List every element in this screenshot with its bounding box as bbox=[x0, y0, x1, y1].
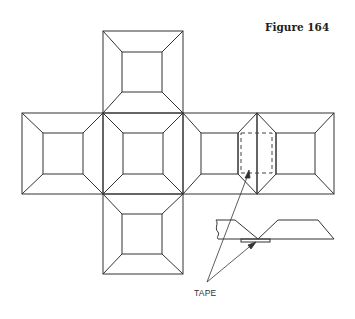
tape-label: TAPE bbox=[194, 288, 216, 298]
cross-section-inset bbox=[216, 220, 334, 242]
face-bottom bbox=[103, 194, 183, 274]
face-top bbox=[103, 31, 183, 113]
face-left bbox=[22, 113, 103, 194]
cube-net-diagram bbox=[0, 0, 355, 319]
tape-strip bbox=[241, 239, 270, 242]
face-center bbox=[103, 113, 183, 194]
figure-canvas: Figure 164 bbox=[0, 0, 355, 319]
tape-arrows bbox=[207, 170, 256, 282]
